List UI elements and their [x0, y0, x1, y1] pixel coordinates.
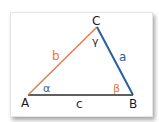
side-a-label: a [119, 50, 126, 64]
vertex-c-label: C [92, 14, 100, 28]
side-b-label: b [52, 49, 60, 63]
angle-alpha-label: α [43, 82, 50, 95]
angle-gamma-label: γ [92, 35, 99, 48]
triangle-diagram: C A B b a c α β γ [0, 0, 159, 122]
vertex-a-label: A [21, 96, 30, 110]
vertex-b-label: B [129, 97, 137, 111]
side-b [28, 27, 97, 95]
angle-beta-label: β [113, 82, 120, 95]
side-c-label: c [76, 97, 83, 111]
